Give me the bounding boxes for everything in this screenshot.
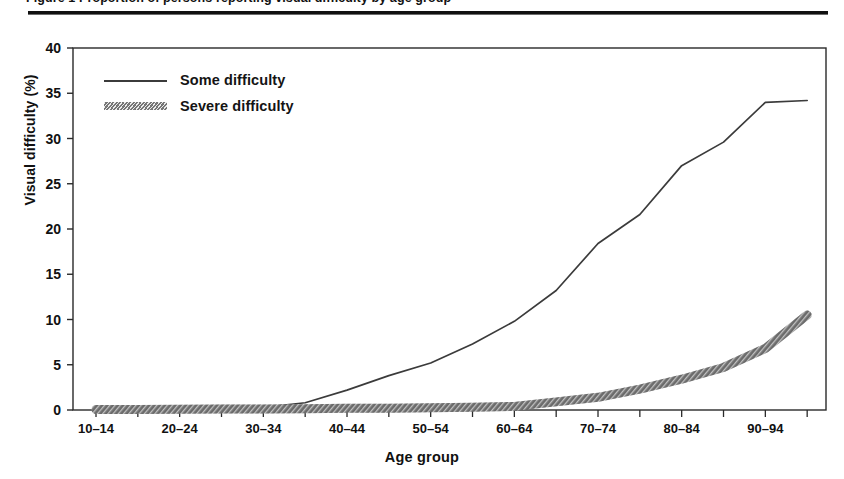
x-tick-label: 80–84 (647, 422, 717, 435)
figure-container: Figure 1 Proportion of persons reporting… (0, 0, 844, 479)
y-tick-label: 5 (21, 358, 61, 372)
series-line-severe-difficulty-base (96, 315, 807, 410)
series-layer (96, 100, 807, 409)
x-tick-label: 50–54 (396, 422, 466, 435)
figure-caption-text: Figure 1 Proportion of persons reporting… (26, 0, 451, 5)
x-tick-label: 20–24 (145, 422, 215, 435)
y-tick-label: 20 (21, 222, 61, 236)
y-tick-label: 30 (21, 132, 61, 146)
x-tick-label: 40–44 (312, 422, 382, 435)
series-line-severe-difficulty (96, 315, 807, 410)
y-tick-label: 35 (21, 86, 61, 100)
x-tick-label: 30–34 (228, 422, 298, 435)
y-tick-label: 25 (21, 177, 61, 191)
y-tick-label: 15 (21, 267, 61, 281)
x-tick-label: 90–94 (730, 422, 800, 435)
y-tick-label: 40 (21, 41, 61, 55)
horizontal-rule (28, 11, 828, 14)
y-tick-label: 10 (21, 313, 61, 327)
x-tick-label: 10–14 (61, 422, 131, 435)
x-tick-label: 70–74 (563, 422, 633, 435)
series-line-some-difficulty (96, 100, 807, 409)
x-tick-label: 60–64 (479, 422, 549, 435)
x-axis-title: Age group (0, 449, 844, 465)
legend-label-some: Some difficulty (180, 72, 285, 88)
figure-caption-cropped: Figure 1 Proportion of persons reporting… (26, 0, 826, 9)
legend-line-swatch-some (104, 80, 167, 82)
y-tick-label: 0 (21, 403, 61, 417)
legend-label-severe: Severe difficulty (180, 98, 294, 114)
plot-svg (0, 0, 844, 479)
legend-line-swatch-severe (104, 102, 167, 110)
